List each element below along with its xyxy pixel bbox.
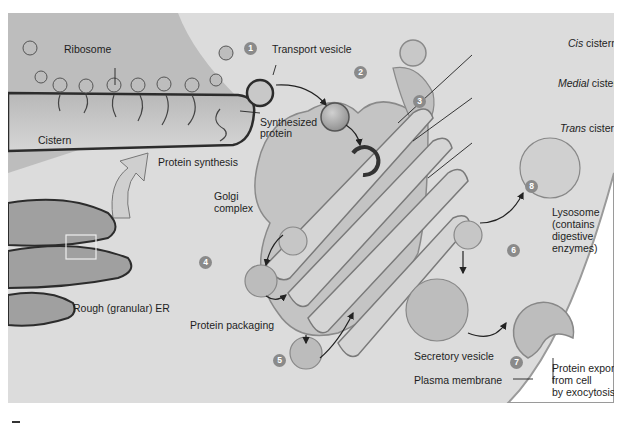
diagram-artwork [8, 13, 614, 403]
label-cis-cistern: Cis cistern [568, 37, 614, 49]
label-golgi-line2: complex [214, 202, 253, 214]
secretory-vesicle [406, 279, 468, 341]
label-transport-vesicle: Transport vesicle [272, 43, 352, 55]
step-badge-3: 3 [413, 95, 426, 108]
transport-vesicle-bud [247, 80, 273, 106]
diagram-canvas: Ribosome Transport vesicle Synthesized p… [8, 13, 614, 403]
step-badge-7: 7 [510, 356, 523, 369]
label-protein-packaging: Protein packaging [190, 319, 274, 331]
step-badge-5: 5 [273, 354, 286, 367]
label-plasma-membrane: Plasma membrane [414, 374, 502, 386]
label-protein-export-line1: Protein export [552, 362, 614, 374]
label-protein-export-line2: from cell [552, 374, 592, 386]
label-medial-cistern: Medial cistern [558, 77, 614, 89]
label-synthesized-protein-line2: protein [260, 127, 292, 139]
label-trans-cistern: Trans cistern [560, 122, 614, 134]
label-lysosome-line4: enzymes) [552, 242, 598, 254]
step-badge-4: 4 [199, 256, 212, 269]
label-golgi-line1: Golgi [214, 190, 239, 202]
zoom-arrow [112, 153, 148, 218]
step-badge-1: 1 [244, 42, 257, 55]
label-protein-export-line3: by exocytosis [552, 386, 614, 398]
step-badge-2: 2 [354, 66, 367, 79]
step-badge-8: 8 [525, 180, 538, 193]
label-rough-er: Rough (granular) ER [73, 302, 170, 314]
label-protein-synthesis: Protein synthesis [158, 156, 238, 168]
step-badge-6: 6 [507, 244, 520, 257]
label-cistern: Cistern [38, 134, 71, 146]
figure-corner-mark [12, 421, 20, 423]
label-lysosome-line2: (contains [552, 218, 595, 230]
label-lysosome-line1: Lysosome [552, 206, 599, 218]
label-secretory-vesicle: Secretory vesicle [414, 350, 494, 362]
label-ribosome: Ribosome [64, 43, 111, 55]
label-lysosome-line3: digestive [552, 230, 593, 242]
